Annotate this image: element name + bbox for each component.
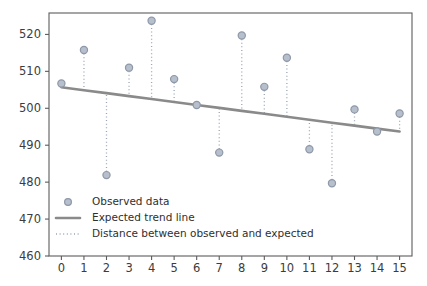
data-point-marker — [148, 17, 155, 24]
x-tick-label: 9 — [261, 261, 268, 275]
data-point-marker — [103, 172, 110, 179]
chart-figure: 460470480490500510520 012345678910111213… — [0, 0, 427, 286]
x-tick-label: 5 — [170, 261, 177, 275]
data-point-marker — [238, 32, 245, 39]
data-point-marker — [351, 106, 358, 113]
x-tick-label: 15 — [392, 261, 407, 275]
scatter-residual-plot: 460470480490500510520 012345678910111213… — [0, 0, 427, 286]
x-tick-label: 7 — [216, 261, 223, 275]
legend-marker-icon — [65, 199, 72, 206]
y-tick-label: 460 — [19, 249, 41, 263]
data-point-marker — [373, 128, 380, 135]
x-tick-label: 4 — [148, 261, 155, 275]
x-tick-label: 2 — [103, 261, 110, 275]
data-point-marker — [171, 76, 178, 83]
data-point-marker — [216, 149, 223, 156]
x-tick-label: 0 — [58, 261, 65, 275]
x-tick-label: 13 — [347, 261, 362, 275]
y-tick-label: 500 — [19, 101, 41, 115]
y-tick-label: 490 — [19, 138, 41, 152]
data-point-marker — [283, 54, 290, 61]
x-tick-label: 3 — [125, 261, 132, 275]
y-tick-label: 470 — [19, 212, 41, 226]
data-point-marker — [261, 83, 268, 90]
x-tick-label: 6 — [193, 261, 200, 275]
data-point-marker — [306, 146, 313, 153]
y-tick-label: 520 — [19, 27, 41, 41]
x-tick-label: 11 — [302, 261, 317, 275]
data-point-marker — [396, 110, 403, 117]
legend-label: Expected trend line — [92, 211, 195, 223]
x-tick-label: 8 — [238, 261, 245, 275]
x-tick-label: 10 — [280, 261, 295, 275]
data-point-marker — [125, 64, 132, 71]
data-point-marker — [80, 46, 87, 53]
x-tick-label: 1 — [80, 261, 87, 275]
data-point-marker — [328, 180, 335, 187]
x-tick-label: 14 — [370, 261, 385, 275]
data-point-marker — [193, 101, 200, 108]
y-tick-label: 510 — [19, 64, 41, 78]
legend-label: Distance between observed and expected — [92, 227, 314, 239]
y-tick-label: 480 — [19, 175, 41, 189]
data-point-marker — [58, 80, 65, 87]
legend-label: Observed data — [92, 195, 170, 207]
x-tick-label: 12 — [325, 261, 340, 275]
